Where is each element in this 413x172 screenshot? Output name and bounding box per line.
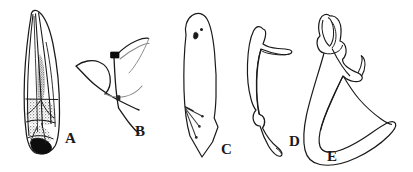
b-vertical-shaft <box>114 58 119 109</box>
panel-label-d: D <box>289 134 300 149</box>
d-outline <box>247 27 291 157</box>
e-outline <box>304 14 396 165</box>
panel-label-e: E <box>327 149 337 164</box>
panel-label-a: A <box>65 131 76 146</box>
c-seta-2-tip <box>198 125 201 128</box>
c-apical-dot <box>200 28 203 31</box>
b-small-node <box>117 96 121 101</box>
figure-illustration <box>0 0 413 172</box>
wing-crossvein-upper <box>26 99 59 100</box>
c-seta-3-tip <box>195 136 198 139</box>
figure-plate: A B C D E <box>0 0 413 172</box>
c-apical-mark <box>193 32 198 39</box>
e-dorsal-process-left <box>358 56 362 74</box>
panel-label-b: B <box>135 124 145 139</box>
b-black-node <box>111 52 120 58</box>
panel-b-sclerite <box>76 38 149 133</box>
panel-c-plate <box>184 13 218 157</box>
c-seta-1-tip <box>201 115 204 118</box>
panel-label-c: C <box>221 142 232 157</box>
b-hook-upper <box>116 38 149 55</box>
panel-d-sclerite <box>247 27 291 157</box>
panel-e-sclerite <box>304 14 396 165</box>
c-plate-outline <box>184 13 218 157</box>
e-inner-blade-edge <box>344 77 393 125</box>
panel-a-wing <box>24 10 59 153</box>
b-hook-inner <box>120 43 149 59</box>
b-upper-arm <box>76 61 110 94</box>
